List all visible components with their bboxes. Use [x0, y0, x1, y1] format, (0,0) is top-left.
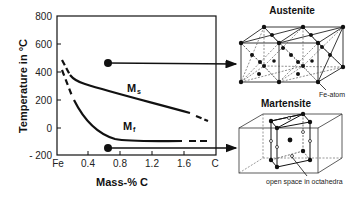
- y-tick-minus-200: - 200: [29, 150, 52, 161]
- austenite-title: Austenite: [269, 5, 315, 16]
- ms-label: M: [127, 82, 136, 94]
- x-tick-c: C: [211, 158, 218, 169]
- fe-atom-label: Fe-atom: [319, 91, 345, 98]
- y-tick-400: 400: [35, 67, 52, 78]
- fe-atom-pointer: [318, 82, 326, 90]
- y-tick-800: 800: [35, 11, 52, 22]
- x-ticks: [88, 151, 184, 155]
- ms-label-subscript: s: [137, 88, 141, 95]
- austenite-lattice: Austenite: [239, 5, 345, 98]
- mf-label: M: [123, 120, 132, 132]
- martensite-diagram: 800 600 400 200 0 - 200 Fe 0.4 0.8 1.2 1…: [0, 0, 362, 197]
- y-axis-title: Temperature in °C: [17, 39, 29, 133]
- x-tick-1-6: 1.6: [177, 158, 191, 169]
- y-tick-600: 600: [35, 39, 52, 50]
- plot-frame: [57, 16, 216, 155]
- x-tick-fe: Fe: [52, 158, 64, 169]
- x-tick-0-8: 0.8: [113, 158, 127, 169]
- mf-curve: [62, 70, 211, 141]
- octahedra-label: open space in octahedra: [266, 178, 343, 186]
- martensite-title: Martensite: [261, 98, 311, 109]
- martensite-lattice: Martensite: [239, 98, 343, 186]
- x-tick-1-2: 1.2: [145, 158, 159, 169]
- x-axis-title: Mass-% C: [96, 176, 148, 188]
- mf-label-subscript: f: [133, 126, 136, 133]
- y-tick-200: 200: [35, 95, 52, 106]
- y-tick-0: 0: [46, 123, 52, 134]
- chart: 800 600 400 200 0 - 200 Fe 0.4 0.8 1.2 1…: [17, 11, 236, 188]
- x-tick-0-4: 0.4: [81, 158, 95, 169]
